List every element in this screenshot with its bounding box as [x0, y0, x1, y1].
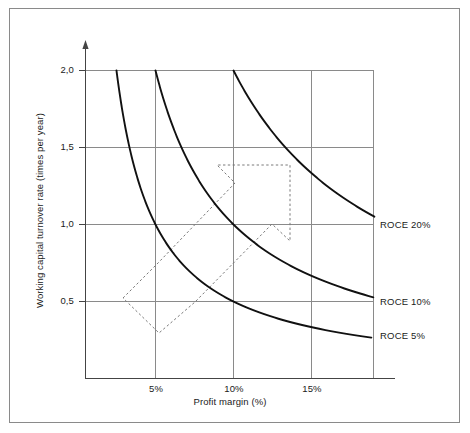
x-axis-title: Profit margin (%)	[85, 396, 375, 407]
series-label-roce-5: ROCE 5%	[380, 330, 425, 341]
horizontal-gridlines	[85, 71, 374, 302]
curve-roce-20	[234, 71, 375, 217]
curve-roce-10	[156, 71, 374, 298]
y-axis-arrowhead	[82, 40, 88, 49]
y-tick-label-1.5: 1,5	[46, 141, 74, 152]
x-tick-label-15: 15%	[292, 383, 332, 394]
chart-figure: 2,0 1,5 1,0 0,5 5% 10% 15% ROCE 20% ROCE…	[0, 0, 470, 433]
x-tick-label-5: 5%	[136, 383, 176, 394]
axis-lines	[85, 44, 395, 379]
curve-roce-5	[117, 71, 372, 338]
y-tick-marks	[79, 71, 85, 302]
y-tick-label-1.0: 1,0	[46, 218, 74, 229]
improvement-arrow-annotation	[123, 165, 290, 333]
y-tick-label-0.5: 0,5	[46, 295, 74, 306]
series-label-roce-20: ROCE 20%	[380, 219, 431, 230]
series-label-roce-10: ROCE 10%	[380, 296, 431, 307]
y-axis-title: Working capital turnover rate (times per…	[34, 86, 45, 336]
y-tick-label-2.0: 2,0	[46, 64, 74, 75]
x-tick-label-10: 10%	[214, 383, 254, 394]
